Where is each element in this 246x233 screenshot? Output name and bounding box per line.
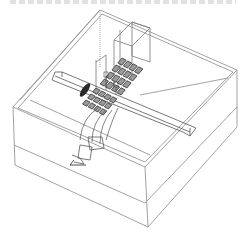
wireframe-diagram [0, 0, 246, 233]
array-grid-upper [100, 58, 143, 95]
bent-waveguide [80, 108, 118, 144]
feed-port [70, 137, 104, 165]
outer-box [13, 10, 237, 227]
